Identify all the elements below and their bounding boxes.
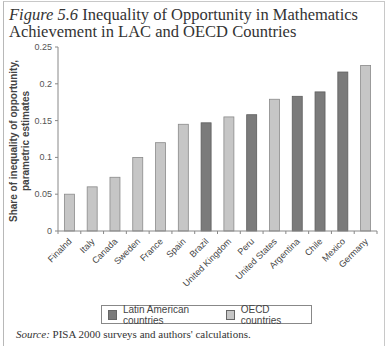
y-tick-label: 0.15 [34, 116, 52, 126]
bar-argentina [292, 96, 302, 231]
bar-united-kingdom [224, 117, 234, 231]
y-axis-label-line1: Share of inequality of opportunity, [8, 60, 19, 222]
source-label: Source: [16, 328, 50, 340]
bar-chile [315, 92, 325, 231]
legend-swatch-light-icon [226, 310, 235, 320]
y-axis: 00.050.10.150.20.25 [34, 42, 58, 236]
bar-sweden [133, 157, 143, 231]
bars [64, 65, 370, 231]
legend-label: Latin American countries [123, 304, 218, 326]
source-note: Source: PISA 2000 surveys and authors' c… [16, 328, 251, 340]
legend-item-latin-american: Latin American countries [108, 304, 218, 326]
x-tick-label: Italy [78, 236, 97, 255]
y-axis-label-line2: parametric estimates [20, 91, 31, 191]
bar-peru [247, 115, 257, 231]
y-tick-label: 0 [47, 226, 52, 236]
y-tick-label: 0.2 [39, 79, 52, 89]
bar-italy [87, 187, 97, 231]
y-tick-label: 0.25 [34, 42, 52, 52]
bar-united-states [269, 99, 279, 231]
bar-france [156, 143, 166, 231]
legend: Latin American countries OECD countries [101, 305, 312, 324]
x-tick-label: France [138, 236, 165, 263]
y-tick-label: 0.1 [39, 152, 52, 162]
x-axis: FinalndItalyCanadaSwedenFranceSpainBrazi… [46, 231, 377, 289]
bar-spain [178, 124, 188, 231]
legend-item-oecd: OECD countries [226, 304, 303, 326]
x-tick-label: Finalnd [46, 236, 74, 264]
x-tick-label: Spain [164, 236, 187, 259]
bar-germany [361, 65, 371, 231]
legend-label: OECD countries [241, 304, 303, 326]
bar-canada [110, 177, 120, 231]
legend-swatch-dark-icon [108, 310, 117, 320]
y-tick-label: 0.05 [34, 189, 52, 199]
bar-mexico [338, 72, 348, 231]
y-axis-label: Share of inequality of opportunity, para… [8, 60, 31, 222]
source-text: PISA 2000 surveys and authors' calculati… [53, 328, 251, 340]
bar-brazil [201, 123, 211, 231]
bar-finalnd [64, 194, 74, 231]
